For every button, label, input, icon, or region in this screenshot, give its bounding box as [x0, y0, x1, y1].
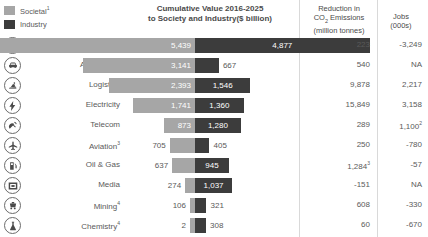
row-bar-area: 8731,280	[0, 118, 300, 133]
bar-societal[interactable]	[185, 178, 195, 193]
cell-jobs: NA	[378, 60, 422, 69]
co2-header-emissions: Emissions	[328, 13, 364, 22]
cell-co2-value: 15,849	[346, 100, 370, 109]
cell-jobs-value: 1,100	[399, 122, 419, 131]
bar-industry[interactable]	[195, 138, 209, 153]
cell-jobs: -780	[378, 140, 422, 149]
bar-societal[interactable]: 2,393	[109, 78, 195, 93]
cell-co2-value: 60	[361, 220, 370, 229]
chart-row: Logistics2,3931,5469,8782,217	[0, 76, 428, 96]
bar-value-societal: 3,141	[171, 61, 191, 70]
cell-co2: 1,2843	[300, 160, 370, 171]
bar-societal[interactable]: 873	[164, 118, 195, 133]
cell-jobs: -3,249	[378, 40, 422, 49]
cell-jobs: -330	[378, 200, 422, 209]
row-bar-area: 1,7411,360	[0, 98, 300, 113]
bar-value-societal: 873	[178, 121, 191, 130]
cell-co2: 9,878	[300, 80, 370, 89]
cell-co2-value: 1,284	[347, 162, 367, 171]
cell-co2: 15,849	[300, 100, 370, 109]
bar-industry[interactable]: 1,546	[195, 78, 250, 93]
bar-value-societal: 2,393	[171, 81, 191, 90]
chart-row: Automotive3,141667540NA	[0, 56, 428, 76]
row-bar-area: 5,4394,877	[0, 38, 300, 53]
co2-header-line2: CO2 Emissions	[300, 13, 378, 26]
cell-jobs: NA	[378, 180, 422, 189]
cell-jobs: 2,217	[378, 80, 422, 89]
legend-label-societal: Societal1	[20, 4, 49, 16]
bar-value-societal: 106	[156, 198, 186, 213]
cell-jobs: 1,1002	[378, 120, 422, 131]
bar-societal[interactable]	[170, 138, 195, 153]
cell-co2: 608	[300, 200, 370, 209]
bar-value-industry: 308	[210, 218, 244, 233]
bar-societal[interactable]	[172, 158, 195, 173]
cell-co2-value: 223	[357, 40, 370, 49]
bar-value-industry: 405	[213, 138, 247, 153]
bar-value-industry: 1,037	[204, 181, 224, 190]
cell-co2-value: 289	[357, 120, 370, 129]
legend-note-societal: 1	[47, 5, 50, 11]
cell-jobs-value: NA	[411, 60, 422, 69]
cell-co2-value: 9,878	[350, 80, 370, 89]
chart-row: Telecom8731,2802891,1002	[0, 116, 428, 136]
cell-jobs: 3,158	[378, 100, 422, 109]
legend-text-industry: Industry	[20, 20, 47, 29]
cell-jobs-value: -670	[406, 220, 422, 229]
bar-societal[interactable]: 3,141	[83, 58, 195, 73]
cell-jobs-value: -780	[406, 140, 422, 149]
co2-header-co: CO	[314, 13, 325, 22]
row-bar-area: 637945	[0, 158, 300, 173]
chart-row: Consumer5,4394,877223-3,249	[0, 36, 428, 56]
bar-value-industry: 321	[210, 198, 244, 213]
bar-value-societal: 5,439	[171, 41, 191, 50]
cell-jobs-note: 2	[419, 120, 422, 126]
cell-co2: 289	[300, 120, 370, 129]
jobs-header-line1: Jobs	[378, 12, 424, 21]
bar-industry[interactable]: 1,360	[195, 98, 244, 113]
legend-swatch-societal	[4, 6, 15, 15]
chart-title-line2: to Society and Industry($ billion)	[120, 14, 300, 24]
bar-value-societal: 637	[138, 158, 168, 173]
bar-industry[interactable]: 1,037	[195, 178, 232, 193]
bar-value-industry: 945	[205, 161, 218, 170]
chart-row: Aviation3705405250-780	[0, 136, 428, 156]
bar-value-industry: 1,360	[209, 101, 229, 110]
row-bar-area: 2,3931,546	[0, 78, 300, 93]
bar-industry[interactable]	[195, 58, 219, 73]
bar-industry[interactable]	[195, 198, 206, 213]
cell-jobs-value: -330	[406, 200, 422, 209]
column-header-co2: Reduction in CO2 Emissions (million tonn…	[300, 4, 378, 35]
bar-value-industry: 1,546	[213, 81, 233, 90]
chart-row: Chemistry4230860-670	[0, 216, 428, 236]
chart-row: Oil & Gas6379451,2843-57	[0, 156, 428, 176]
row-bar-area: 2308	[0, 218, 300, 233]
bar-societal[interactable]: 1,741	[133, 98, 195, 113]
cell-jobs-value: NA	[411, 180, 422, 189]
cell-co2: 250	[300, 140, 370, 149]
chart-row: Mining4106321608-330	[0, 196, 428, 216]
legend-item-societal: Societal1	[4, 4, 49, 16]
bar-societal[interactable]: 5,439	[0, 38, 195, 53]
co2-header-line1: Reduction in	[300, 4, 378, 13]
bar-industry[interactable]: 945	[195, 158, 229, 173]
chart-title-line1: Cumulative Value 2016-2025	[120, 4, 300, 14]
row-bar-area: 106321	[0, 198, 300, 213]
bar-value-societal: 1,741	[171, 101, 191, 110]
chart-rows: Consumer5,4394,877223-3,249Automotive3,1…	[0, 36, 428, 236]
cell-co2: -151	[300, 180, 370, 189]
chart-row: Electricity1,7411,36015,8493,158	[0, 96, 428, 116]
bar-value-industry: 1,280	[208, 121, 228, 130]
bar-value-industry: 667	[223, 58, 257, 73]
cell-co2: 223	[300, 40, 370, 49]
chart-root: Societal1 Industry Cumulative Value 2016…	[0, 0, 428, 237]
jobs-header-line2: (000s)	[378, 21, 424, 30]
legend-text-societal: Societal	[20, 7, 47, 16]
chart-row: Media2741,037-151NA	[0, 176, 428, 196]
cell-co2-value: 608	[357, 200, 370, 209]
co2-header-line3: (million tonnes)	[300, 26, 378, 35]
cell-jobs-value: 2,217	[402, 80, 422, 89]
cell-jobs-value: -57	[410, 160, 422, 169]
bar-industry[interactable]	[195, 218, 206, 233]
bar-industry[interactable]: 1,280	[195, 118, 241, 133]
